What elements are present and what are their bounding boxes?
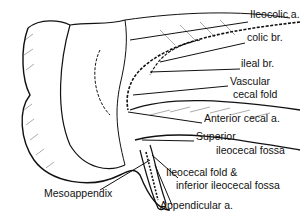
label-vascular-cecal-fold-1: Vascular xyxy=(230,76,270,87)
label-ileocecal-fold-2: inferior ileocecal fossa xyxy=(176,180,280,191)
label-ileocecal-fold-1: Ileocecal fold & xyxy=(166,167,237,178)
label-mesoappendix: Mesoappendix xyxy=(44,188,112,199)
label-superior-ileocecal-fossa-1: Superior xyxy=(196,131,236,142)
label-vascular-cecal-fold-2: cecal fold xyxy=(233,89,277,100)
label-ileal-branch: ileal br. xyxy=(241,58,274,69)
label-colic-branch: colic br. xyxy=(247,32,283,43)
label-ileocolic-artery: Ileocolic a. xyxy=(250,9,300,20)
label-anterior-cecal-artery: Anterior cecal a. xyxy=(204,113,280,124)
label-appendicular-artery: Appendicular a. xyxy=(160,200,233,211)
label-superior-ileocecal-fossa-2: ileocecal fossa xyxy=(216,145,285,156)
anatomy-diagram: Ileocolic a. colic br. ileal br. Vascula… xyxy=(0,0,308,218)
